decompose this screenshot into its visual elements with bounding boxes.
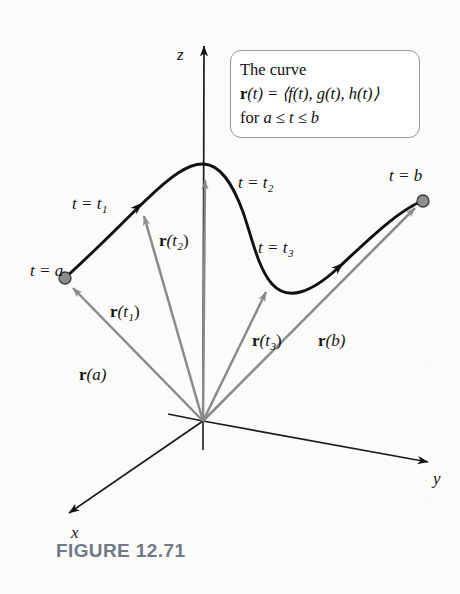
- callout-line-3-rest: a ≤ t ≤ b: [263, 108, 319, 127]
- label-vector-r-t2: r(t2): [159, 232, 189, 252]
- label-t-equals-t1-sub: 1: [102, 203, 108, 215]
- label-vector-r-b-bold: r: [318, 331, 326, 350]
- figure-container: z y x t = a t = t1 t = t2 t = t3 t = b r…: [0, 0, 460, 594]
- label-vector-r-b-text: (b): [326, 331, 346, 350]
- label-vector-r-t1-paren: ): [134, 302, 140, 321]
- point-t-b: [417, 195, 429, 207]
- label-vector-r-t1-bold: r: [110, 302, 118, 321]
- label-vector-r-t2-text: (t: [167, 231, 177, 250]
- label-t-equals-t1: t = t1: [72, 195, 107, 215]
- label-vector-r-b: r(b): [318, 332, 345, 349]
- label-vector-r-t2-paren: ): [183, 231, 189, 250]
- label-vector-r-a-text: (a): [87, 365, 107, 384]
- callout-line-2-rest: (t) = ⟨f(t), g(t), h(t)⟩: [247, 84, 378, 103]
- callout-line-1: The curve: [240, 58, 419, 82]
- label-vector-r-a: r(a): [79, 366, 106, 383]
- label-t-equals-t3-text: t = t: [258, 238, 287, 257]
- label-vector-r-a-bold: r: [79, 365, 87, 384]
- label-vector-r-t3-bold: r: [252, 331, 260, 350]
- label-t-equals-t1-text: t = t: [72, 194, 101, 213]
- y-axis-label: y: [433, 470, 441, 487]
- label-t-equals-t2-sub: 2: [268, 182, 274, 194]
- callout-box: The curve r(t) = ⟨f(t), g(t), h(t)⟩ for …: [230, 50, 420, 138]
- callout-line-3-prefix: for: [240, 108, 263, 127]
- x-axis-label: x: [71, 524, 79, 541]
- label-vector-r-t3-paren: ): [276, 331, 282, 350]
- label-vector-r-t1-text: (t: [118, 302, 128, 321]
- label-t-equals-b: t = b: [389, 167, 422, 184]
- label-t-equals-a-text: t = a: [30, 261, 63, 280]
- z-axis-label: z: [177, 46, 184, 63]
- callout-line-2: r(t) = ⟨f(t), g(t), h(t)⟩: [240, 82, 419, 106]
- y-axis: [203, 421, 428, 462]
- callout-line-3: for a ≤ t ≤ b: [240, 106, 419, 130]
- label-t-equals-a: t = a: [30, 262, 63, 279]
- label-vector-r-t3: r(t3): [252, 332, 282, 352]
- figure-caption: FIGURE 12.71: [56, 540, 185, 562]
- label-t-equals-t2: t = t2: [238, 174, 273, 194]
- label-t-equals-t2-text: t = t: [238, 173, 267, 192]
- vector-arrow-r-t3: [203, 292, 266, 421]
- label-t-equals-t3-sub: 3: [288, 247, 294, 259]
- x-axis: [69, 421, 203, 513]
- label-vector-r-t3-text: (t: [260, 331, 270, 350]
- label-vector-r-t2-bold: r: [159, 231, 167, 250]
- label-t-equals-t3: t = t3: [258, 239, 293, 259]
- vector-arrow-r-b: [203, 208, 415, 421]
- label-t-equals-b-text: t = b: [389, 166, 422, 185]
- label-vector-r-t1: r(t1): [110, 303, 140, 323]
